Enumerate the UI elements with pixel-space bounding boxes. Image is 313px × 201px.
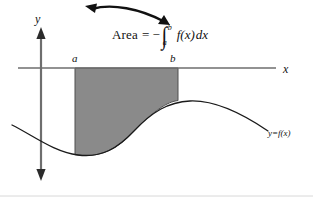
callout-arrow-left-head-icon: [85, 4, 97, 14]
integral-upper-limit: b: [168, 23, 172, 32]
y-axis-down-arrowhead-icon: [36, 169, 45, 181]
integral-symbol-group: b ∫ a: [161, 24, 173, 46]
shaded-area-region: [75, 68, 178, 156]
integral-lower-limit: a: [163, 38, 167, 47]
curve-equation-label: y=f(x): [268, 129, 291, 138]
callout-curved-arrow: [92, 7, 163, 21]
upper-limit-label-b: b: [170, 53, 176, 64]
lower-limit-label-a: a: [72, 53, 78, 64]
formula-differential: dx: [196, 27, 208, 43]
area-formula: Area = − b ∫ a f(x) dx: [112, 24, 208, 46]
formula-word-area: Area: [112, 27, 138, 43]
y-axis-label: y: [35, 13, 40, 25]
calculus-area-figure: y x a b y=f(x) Area = − b ∫ a f(x) dx: [0, 0, 313, 201]
formula-minus-sign: −: [152, 27, 159, 43]
y-axis-up-arrowhead-icon: [36, 27, 45, 39]
formula-equals-sign: =: [142, 27, 149, 43]
formula-integrand: f(x): [177, 27, 195, 43]
x-axis-label: x: [283, 63, 288, 75]
